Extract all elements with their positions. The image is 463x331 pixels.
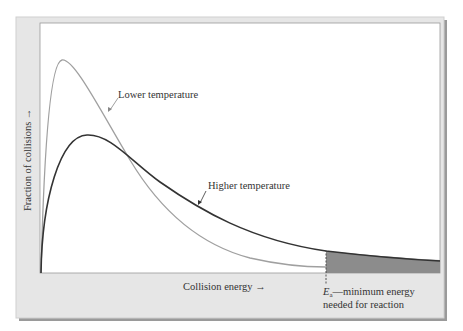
ea-label-line2: needed for reaction [323,299,405,310]
higher-temperature-label: Higher temperature [208,180,290,191]
lower-temperature-label: Lower temperature [118,89,199,100]
plot-area [40,23,440,273]
y-axis-label: Fraction of collisions → [22,109,33,211]
maxwell-boltzmann-chart: Lower temperature Higher temperature Col… [0,0,463,331]
x-axis-label: Collision energy → [183,281,266,292]
